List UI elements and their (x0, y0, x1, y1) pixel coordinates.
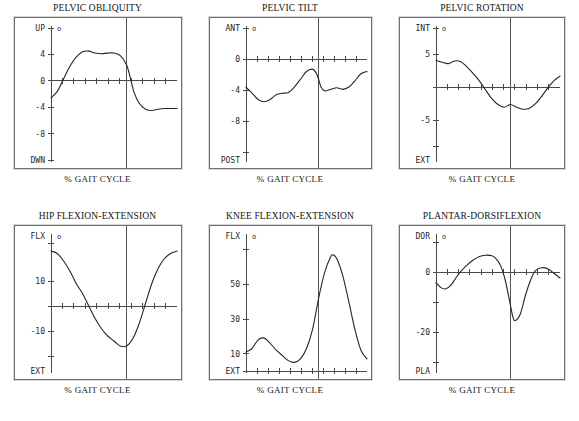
chart-title-pelvic-obliquity: PELVIC OBLIQUITY (0, 0, 195, 14)
plot-frame-pelvic-obliquity: 40-4-8UPDWNo (14, 17, 182, 169)
data-curve-hip-flexion-extension (51, 251, 177, 347)
y-tick-label: -8 (230, 117, 240, 126)
y-tick-label: 5 (425, 50, 430, 59)
x-axis-label-pelvic-tilt: % GAIT CYCLE (195, 169, 385, 184)
y-tick-label: -10 (30, 327, 45, 336)
y-axis-bottom-label: PLA (416, 367, 431, 376)
chart-cell-knee-flexion-extension: KNEE FLEXION-EXTENSION503010FLXEXTo% GAI… (195, 208, 385, 421)
y-axis-bottom-label: DWN (30, 156, 45, 165)
y-tick-label: -5 (420, 116, 430, 125)
plot-frame-hip-flexion-extension: 10-10FLXEXTo (14, 225, 182, 380)
plot-frame-pelvic-tilt: 0-4-8ANTPOSTo (209, 17, 372, 169)
plot-canvas-plantar-dorsiflexion: 0-20DORPLAo (400, 226, 564, 379)
y-axis-top-label: DOR (416, 232, 431, 241)
y-axis-top-label: FLX (30, 232, 45, 241)
x-axis-label-hip-flexion-extension: % GAIT CYCLE (0, 380, 195, 395)
y-axis-top-label: INT (416, 24, 431, 33)
y-tick-label: 4 (40, 50, 45, 59)
y-axis-top-label: ANT (225, 24, 240, 33)
y-tick-label: 0 (425, 268, 430, 277)
y-tick-label: -20 (416, 328, 431, 337)
chart-cell-hip-flexion-extension: HIP FLEXION-EXTENSION10-10FLXEXTo% GAIT … (0, 208, 195, 421)
y-tick-label: 10 (230, 350, 240, 359)
y-tick-label: -8 (35, 130, 45, 139)
plot-frame-plantar-dorsiflexion: 0-20DORPLAo (399, 225, 565, 380)
y-axis-bottom-label: EXT (225, 367, 240, 376)
data-curve-knee-flexion-extension (246, 255, 367, 363)
x-axis-label-knee-flexion-extension: % GAIT CYCLE (195, 380, 385, 395)
data-curve-pelvic-tilt (246, 69, 367, 102)
y-tick-label: -4 (230, 86, 240, 95)
chart-cell-pelvic-rotation: PELVIC ROTATION5-5INTEXTo% GAIT CYCLE (385, 0, 579, 208)
plot-canvas-pelvic-obliquity: 40-4-8UPDWNo (15, 18, 181, 168)
degree-unit-symbol: o (442, 233, 446, 241)
y-tick-label: 30 (230, 315, 240, 324)
x-axis-label-plantar-dorsiflexion: % GAIT CYCLE (385, 380, 579, 395)
y-axis-bottom-label: EXT (416, 156, 431, 165)
chart-cell-plantar-dorsiflexion: PLANTAR-DORSIFLEXION0-20DORPLAo% GAIT CY… (385, 208, 579, 421)
y-tick-label: -4 (35, 103, 45, 112)
degree-unit-symbol: o (252, 233, 256, 241)
y-tick-label: 0 (235, 55, 240, 64)
degree-unit-symbol: o (442, 25, 446, 33)
y-tick-label: 0 (40, 77, 45, 86)
chart-title-hip-flexion-extension: HIP FLEXION-EXTENSION (0, 208, 195, 222)
plot-canvas-knee-flexion-extension: 503010FLXEXTo (210, 226, 371, 379)
x-axis-label-pelvic-obliquity: % GAIT CYCLE (0, 169, 195, 184)
gait-chart-grid: PELVIC OBLIQUITY40-4-8UPDWNo% GAIT CYCLE… (0, 0, 579, 421)
plot-frame-pelvic-rotation: 5-5INTEXTo (399, 17, 565, 169)
chart-title-pelvic-tilt: PELVIC TILT (195, 0, 385, 14)
chart-title-plantar-dorsiflexion: PLANTAR-DORSIFLEXION (385, 208, 579, 222)
y-tick-label: 10 (35, 277, 45, 286)
plot-canvas-hip-flexion-extension: 10-10FLXEXTo (15, 226, 181, 379)
chart-title-pelvic-rotation: PELVIC ROTATION (385, 0, 579, 14)
degree-unit-symbol: o (57, 25, 61, 33)
plot-frame-knee-flexion-extension: 503010FLXEXTo (209, 225, 372, 380)
plot-canvas-pelvic-rotation: 5-5INTEXTo (400, 18, 564, 168)
y-axis-top-label: UP (35, 24, 45, 33)
degree-unit-symbol: o (57, 233, 61, 241)
data-curve-pelvic-rotation (436, 60, 560, 109)
plot-canvas-pelvic-tilt: 0-4-8ANTPOSTo (210, 18, 371, 168)
x-axis-label-pelvic-rotation: % GAIT CYCLE (385, 169, 579, 184)
y-axis-bottom-label: POST (220, 156, 239, 165)
chart-cell-pelvic-obliquity: PELVIC OBLIQUITY40-4-8UPDWNo% GAIT CYCLE (0, 0, 195, 208)
y-axis-top-label: FLX (225, 232, 240, 241)
y-axis-bottom-label: EXT (30, 367, 45, 376)
y-tick-label: 50 (230, 280, 240, 289)
chart-title-knee-flexion-extension: KNEE FLEXION-EXTENSION (195, 208, 385, 222)
chart-cell-pelvic-tilt: PELVIC TILT0-4-8ANTPOSTo% GAIT CYCLE (195, 0, 385, 208)
data-curve-plantar-dorsiflexion (436, 255, 560, 321)
degree-unit-symbol: o (252, 25, 256, 33)
